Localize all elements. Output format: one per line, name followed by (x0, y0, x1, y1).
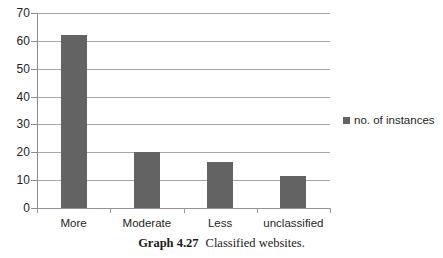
x-tick-label-moderate: Moderate (110, 216, 183, 230)
y-tick-label-60: 60 (2, 35, 30, 47)
caption-text: Classified websites. (206, 236, 305, 250)
x-tick-2 (184, 208, 185, 213)
plot-area (37, 13, 330, 208)
y-tick-label-30: 30 (2, 118, 30, 130)
legend-item-label: no. of instances (354, 114, 435, 127)
figure-classified-websites: 010203040506070 MoreModerateLessunclassi… (0, 0, 443, 258)
y-tick-label-70: 70 (2, 7, 30, 19)
legend-swatch-icon (343, 117, 350, 124)
bar-less (207, 162, 233, 208)
y-tick-60 (31, 41, 38, 42)
y-tick-label-0: 0 (2, 202, 30, 214)
x-tick-0 (37, 208, 38, 213)
y-tick-label-40: 40 (2, 91, 30, 103)
x-tick-end (330, 208, 331, 213)
gridline-70 (37, 13, 330, 14)
y-tick-20 (31, 152, 38, 153)
bar-more (61, 35, 87, 208)
x-tick-1 (110, 208, 111, 213)
bar-moderate (134, 152, 160, 208)
chart-legend: no. of instances (343, 114, 435, 127)
bar-unclassified (280, 176, 306, 208)
y-tick-label-50: 50 (2, 63, 30, 75)
x-tick-3 (257, 208, 258, 213)
y-tick-30 (31, 124, 38, 125)
y-tick-70 (31, 13, 38, 14)
y-axis-labels: 010203040506070 (0, 0, 30, 258)
caption-number: Graph 4.27 (138, 236, 198, 250)
figure-caption: Graph 4.27Classified websites. (0, 236, 443, 251)
y-tick-10 (31, 180, 38, 181)
y-tick-label-20: 20 (2, 146, 30, 158)
x-tick-label-more: More (37, 216, 110, 230)
x-axis-labels: MoreModerateLessunclassified (37, 216, 330, 234)
y-tick-50 (31, 69, 38, 70)
x-tick-label-unclassified: unclassified (257, 216, 330, 230)
y-tick-label-10: 10 (2, 174, 30, 186)
x-tick-label-less: Less (184, 216, 257, 230)
y-tick-40 (31, 97, 38, 98)
